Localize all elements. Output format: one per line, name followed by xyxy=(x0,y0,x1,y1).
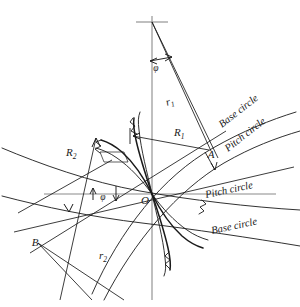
angle-label-phi-upper: φ xyxy=(153,63,158,73)
tooth-profile-upper-2 xyxy=(101,140,152,194)
point-label-A: A xyxy=(207,148,215,160)
curve-label-base-circle-lower: Base circle xyxy=(210,215,258,236)
pitch-circle-lower-arc xyxy=(2,148,300,210)
pitch-circle-upper-arc xyxy=(104,131,300,300)
angle-label-phi-lower: φ xyxy=(100,192,105,202)
dimension-label-r1: r1 xyxy=(164,94,176,110)
tooth-profile-lower-2 xyxy=(152,194,203,248)
point-label-B: B xyxy=(32,236,39,248)
line-of-action-upper xyxy=(152,22,218,158)
radius-r2-aux-line xyxy=(38,243,92,300)
radius-R2-line xyxy=(60,138,96,300)
dimension-label-R2: R2 xyxy=(65,146,77,161)
gear-meshing-diagram: O A B r1 R1 R2 r2 φ φ Base circle Pitch … xyxy=(0,0,300,307)
dimension-label-R1: R1 xyxy=(173,126,184,141)
pressure-line xyxy=(30,131,226,253)
tooth-tip-marker-right xyxy=(199,200,206,214)
dimension-label-r2: r2 xyxy=(99,249,107,264)
radius-r2-line xyxy=(38,243,124,300)
dim-R1-leader xyxy=(133,136,209,150)
point-label-O: O xyxy=(141,194,149,206)
